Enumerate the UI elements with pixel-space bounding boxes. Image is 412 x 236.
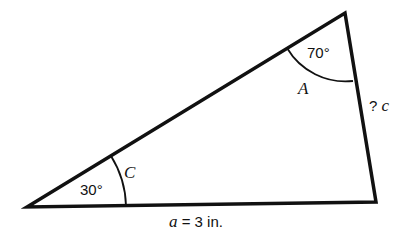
angle-c-label: C bbox=[124, 163, 136, 182]
side-c-label: ? c bbox=[369, 96, 390, 115]
side-a-var: a bbox=[169, 212, 178, 231]
side-c-question: ? bbox=[369, 97, 382, 114]
angle-a-label: A bbox=[297, 79, 309, 98]
side-a-length: = 3 in. bbox=[178, 213, 223, 230]
side-a-label: a = 3 in. bbox=[169, 212, 223, 231]
triangle bbox=[27, 13, 376, 207]
side-c-var: c bbox=[382, 96, 390, 115]
angle-c-value: 30° bbox=[80, 181, 103, 198]
triangle-diagram: 70° A 30° C ? c a = 3 in. bbox=[0, 0, 412, 236]
angle-a-value: 70° bbox=[307, 44, 330, 61]
